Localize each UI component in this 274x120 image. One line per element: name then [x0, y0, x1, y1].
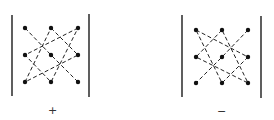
sarrus-diagram [0, 0, 274, 120]
matrix-plus [12, 14, 89, 97]
matrix-entry-dot [76, 26, 80, 30]
matrix-entry-dot [49, 26, 53, 30]
matrix-entry-dot [194, 28, 198, 32]
plus-sign-label: + [48, 105, 57, 116]
matrix-entry-dot [194, 55, 198, 59]
matrix-entry-dot [220, 28, 224, 32]
matrix-entry-dot [23, 80, 27, 84]
matrix-entry-dot [76, 53, 80, 57]
matrix-entry-dot [23, 53, 27, 57]
matrix-entry-dot [49, 80, 53, 84]
minus-sign-label: − [217, 106, 226, 117]
matrix-entry-dot [49, 53, 53, 57]
matrix-entry-dot [220, 55, 224, 59]
matrix-entry-dot [220, 81, 224, 85]
matrix-entry-dot [246, 28, 250, 32]
matrix-entry-dot [23, 26, 27, 30]
matrix-entry-dot [194, 81, 198, 85]
matrix-entry-dot [76, 80, 80, 84]
matrix-entry-dot [246, 55, 250, 59]
matrix-entry-dot [246, 81, 250, 85]
matrix-minus [182, 15, 261, 98]
